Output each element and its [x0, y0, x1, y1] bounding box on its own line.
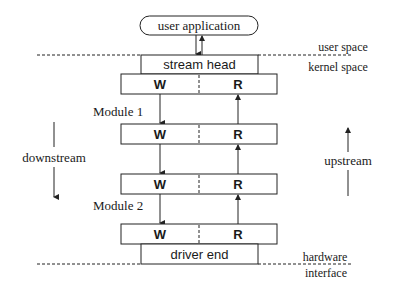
read-queue-label: R: [233, 77, 243, 92]
read-queue-label: R: [233, 177, 243, 192]
stream-head-box: stream head: [141, 55, 258, 74]
driver-end-box: driver end: [141, 244, 258, 264]
user-space-label: user space: [318, 40, 368, 54]
queue-pair-module-1: W R: [121, 124, 277, 144]
write-queue-label: W: [154, 177, 167, 192]
upstream-label: upstream: [324, 153, 372, 168]
hardware-label: hardware: [303, 250, 348, 264]
read-queue-label: R: [233, 127, 243, 142]
driver-end-label: driver end: [171, 247, 229, 262]
downstream-label: downstream: [22, 150, 86, 165]
read-queue-label: R: [233, 227, 243, 242]
module-1-label: Module 1: [93, 104, 143, 119]
stream-head-label: stream head: [163, 57, 235, 72]
write-queue-label: W: [154, 227, 167, 242]
user-application-node: user application: [140, 16, 258, 35]
upstream-indicator: upstream: [324, 128, 372, 196]
interface-label: interface: [305, 266, 347, 280]
streams-diagram: user application stream head W R Module …: [0, 0, 399, 297]
write-queue-label: W: [154, 77, 167, 92]
kernel-space-label: kernel space: [308, 60, 368, 74]
module-2-label: Module 2: [93, 198, 143, 213]
user-application-label: user application: [158, 18, 241, 33]
queue-pair-module-1-lower: W R: [121, 174, 277, 194]
downstream-indicator: downstream: [22, 122, 86, 197]
write-queue-label: W: [154, 127, 167, 142]
queue-pair-stream-head: W R: [121, 74, 277, 94]
queue-pair-driver: W R: [121, 224, 277, 244]
